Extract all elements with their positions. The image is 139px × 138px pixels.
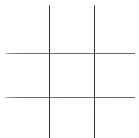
cell-middle-left[interactable] — [0, 54, 48, 96]
cell-bottom-right[interactable] — [95, 98, 139, 138]
cell-top-center[interactable] — [50, 0, 93, 52]
cell-middle-right[interactable] — [95, 54, 139, 96]
cell-middle-center[interactable] — [50, 54, 93, 96]
cell-bottom-left[interactable] — [0, 98, 48, 138]
cell-top-left[interactable] — [0, 0, 48, 52]
tic-tac-toe-board: Tic Tac Toe — [0, 0, 139, 138]
cell-top-right[interactable] — [95, 0, 139, 52]
cell-bottom-center[interactable] — [50, 98, 93, 138]
